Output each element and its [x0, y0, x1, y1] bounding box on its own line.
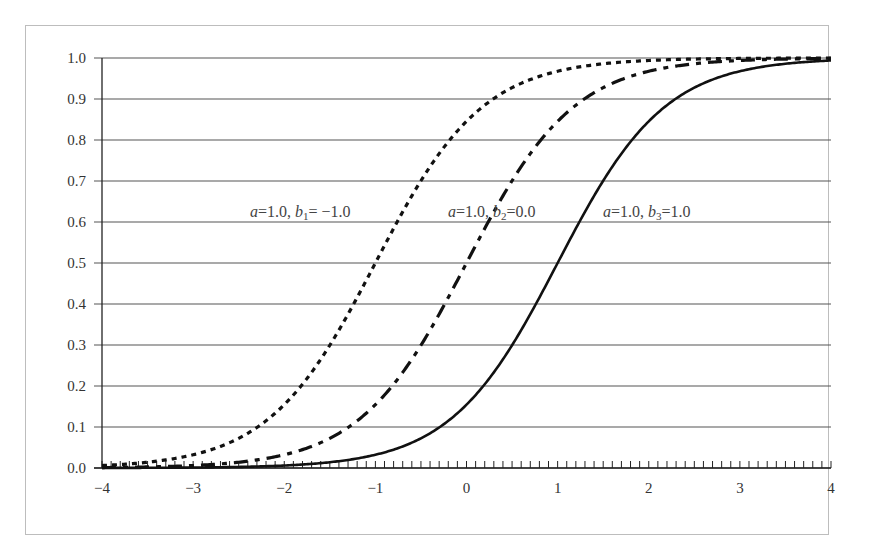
x-tick-label: −4 [94, 480, 110, 496]
y-tick-label: 0.5 [67, 255, 86, 271]
logistic-curves-chart: 0.00.10.20.30.40.50.60.70.80.91.0 −4−3−2… [0, 0, 884, 548]
x-tick-label: 4 [827, 480, 835, 496]
annotation-curve-2: a=1.0, b2=0.0 [448, 203, 536, 222]
y-tick-label: 0.8 [67, 132, 86, 148]
annotation-curve-3: a=1.0, b3=1.0 [603, 203, 691, 222]
y-tick-label: 0.4 [67, 296, 86, 312]
x-tick-label: −3 [185, 480, 201, 496]
y-tick-label: 0.9 [67, 91, 86, 107]
curve-3 [102, 60, 831, 467]
y-tick-label: 0.1 [67, 419, 86, 435]
y-tick-label: 0.0 [67, 460, 86, 476]
x-tick-label: 0 [463, 480, 471, 496]
y-tick-label: 0.3 [67, 337, 86, 353]
y-tick-label: 0.7 [67, 173, 86, 189]
y-tick-label: 1.0 [67, 50, 86, 66]
annotation-curve-1: a=1.0, b1= −1.0 [250, 203, 351, 222]
x-tick-label: 3 [736, 480, 744, 496]
x-tick-label: 1 [554, 480, 562, 496]
x-tick-label: −2 [276, 480, 292, 496]
x-tick-label: 2 [645, 480, 653, 496]
y-tick-label: 0.2 [67, 378, 86, 394]
x-tick-label: −1 [367, 480, 383, 496]
gridlines [94, 58, 831, 468]
y-tick-label: 0.6 [67, 214, 86, 230]
curve-annotations: a=1.0, b1= −1.0 a=1.0, b2=0.0 a=1.0, b3=… [250, 203, 691, 222]
